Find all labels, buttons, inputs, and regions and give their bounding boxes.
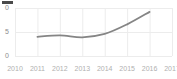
plot-area (0, 0, 177, 79)
horizontal-gridlines (15, 9, 172, 57)
line-chart: 050 20102011201220132014201520162017 (0, 0, 177, 79)
series-line (37, 12, 149, 37)
